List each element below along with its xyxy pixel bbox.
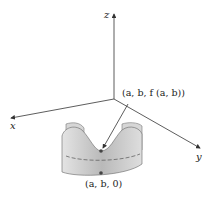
y-axis-label: y bbox=[196, 152, 202, 162]
base-point bbox=[99, 171, 103, 175]
surface-point-label: (a, b, f (a, b)) bbox=[122, 88, 185, 98]
z-axis-label: z bbox=[104, 10, 109, 20]
x-axis bbox=[11, 99, 114, 118]
saddle-surface bbox=[62, 123, 142, 176]
base-point-label: (a, b, 0) bbox=[85, 179, 122, 189]
diagram-canvas bbox=[0, 0, 214, 198]
surface-point bbox=[99, 149, 103, 153]
x-axis-label: x bbox=[10, 121, 16, 131]
